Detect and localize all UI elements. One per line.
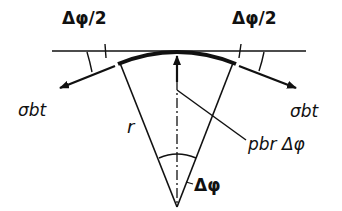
angle-arc-left xyxy=(87,52,92,72)
stress-arrow-right xyxy=(239,66,296,88)
diagram-canvas: Δφ/2 Δφ/2 σbt σbt r pbr Δφ Δφ xyxy=(0,0,342,211)
stress-arrow-left xyxy=(60,66,115,88)
label-radius: r xyxy=(127,118,134,136)
label-pressure-force: pbr Δφ xyxy=(248,136,305,153)
label-half-angle-right: Δφ/2 xyxy=(232,10,277,27)
label-stress-right: σbt xyxy=(290,103,318,120)
angle-arc-right xyxy=(259,52,264,71)
label-half-angle-left: Δφ/2 xyxy=(62,10,107,27)
leader-line-pressure xyxy=(177,90,246,140)
label-center-angle: Δφ xyxy=(194,177,220,194)
tick-left xyxy=(105,44,106,58)
label-stress-left: σbt xyxy=(18,102,46,119)
tick-right xyxy=(239,44,241,58)
